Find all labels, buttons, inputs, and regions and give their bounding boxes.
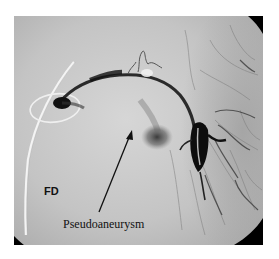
angiography-figure: FD Pseudoaneurysm <box>0 0 279 259</box>
angiogram-image: FD Pseudoaneurysm <box>0 0 279 259</box>
label-fd: FD <box>44 185 59 197</box>
label-pseudoaneurysm: Pseudoaneurysm <box>63 217 145 231</box>
